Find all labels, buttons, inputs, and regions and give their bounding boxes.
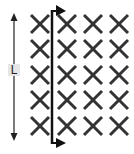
arrow-right-icon: [56, 5, 66, 16]
arrow-right-icon: [56, 138, 66, 148]
magnetic-field-grid: [31, 15, 128, 135]
length-label: L: [8, 64, 20, 76]
dimension-arrow: [11, 13, 18, 141]
diagram-canvas: [0, 0, 134, 154]
